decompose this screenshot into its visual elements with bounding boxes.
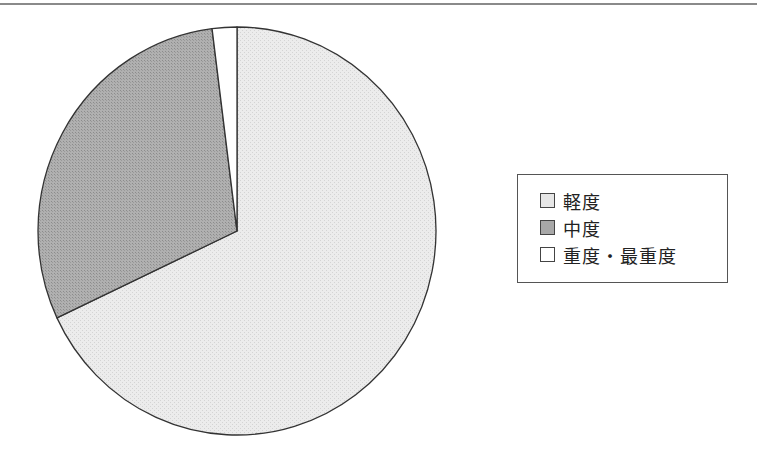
legend-label: 重度・最重度 xyxy=(563,242,677,268)
legend-label: 軽度 xyxy=(563,188,601,214)
legend-swatch-severe xyxy=(540,247,555,262)
legend-swatch-mild xyxy=(540,193,555,208)
chart-legend: 軽度 中度 重度・最重度 xyxy=(517,174,728,283)
legend-swatch-moderate xyxy=(540,220,555,235)
legend-item-severe: 重度・最重度 xyxy=(518,241,727,268)
legend-item-moderate: 中度 xyxy=(518,214,727,241)
legend-item-mild: 軽度 xyxy=(518,187,727,214)
legend-label: 中度 xyxy=(563,215,601,241)
